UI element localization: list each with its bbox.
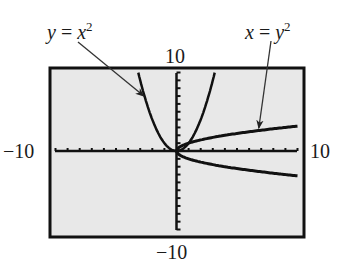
label-x-equals-y-squared: x = y2 <box>245 22 291 42</box>
xmax-label: 10 <box>310 141 330 161</box>
xmin-label: −10 <box>3 141 34 161</box>
ymax-label: 10 <box>165 46 185 66</box>
label-y-equals-x-squared: y = x2 <box>47 22 93 42</box>
ymin-label: −10 <box>156 242 187 262</box>
